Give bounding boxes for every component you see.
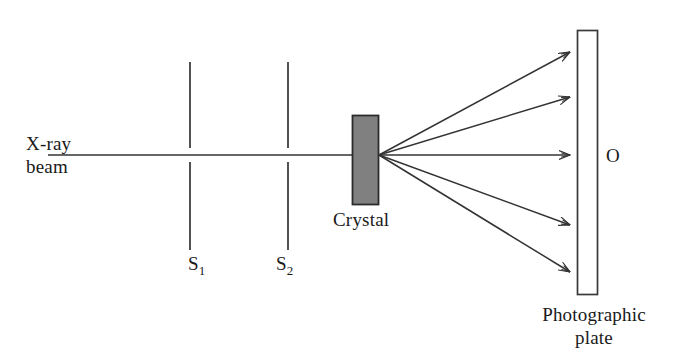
laue-diffraction-diagram: X-raybeam S1 S2 Crystal O Photographicpl… [0, 0, 683, 364]
ray-up-inner [379, 97, 570, 155]
photographic-plate-label-line2: plate [575, 327, 613, 348]
ray-down-inner [379, 155, 570, 225]
ray-up-outer [379, 52, 570, 155]
slit-1-label-letter: S [188, 253, 199, 274]
slit-1-label-subscript: 1 [199, 263, 206, 278]
slit-2-label: S2 [276, 252, 293, 282]
ray-down-outer [379, 155, 570, 272]
xray-beam-label-line2: beam [26, 156, 68, 177]
xray-beam-label: X-raybeam [26, 132, 71, 178]
crystal-block [353, 116, 379, 205]
crystal-label: Crystal [333, 208, 389, 231]
slit-2-label-subscript: 2 [287, 263, 294, 278]
photographic-plate-rect [578, 31, 598, 295]
slit-1-label: S1 [188, 252, 205, 282]
slit-2-label-letter: S [276, 253, 287, 274]
xray-beam-label-line1: X-ray [26, 133, 71, 154]
diffracted-ray-fan [379, 52, 570, 272]
photographic-plate-label: Photographicplate [519, 303, 669, 349]
central-spot-label: O [606, 144, 620, 167]
photographic-plate-label-line1: Photographic [542, 304, 646, 325]
